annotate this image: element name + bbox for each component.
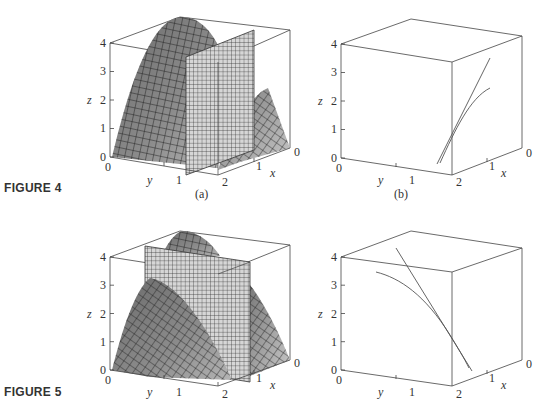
x-tick-1: 1 bbox=[489, 371, 495, 385]
x-axis-label: x bbox=[500, 166, 507, 180]
x-tick-2: 2 bbox=[456, 387, 462, 401]
y-tick-0: 0 bbox=[336, 161, 342, 175]
y-axis-label: y bbox=[146, 173, 153, 187]
figure-5b-plot: 0 1 2 3 4 z 0 y 1 2 1 x 0 bbox=[317, 231, 532, 401]
z-tick-3: 3 bbox=[100, 278, 106, 292]
z-tick-1: 1 bbox=[331, 335, 337, 349]
z-tick-4: 4 bbox=[100, 36, 106, 50]
x-tick-0: 0 bbox=[294, 356, 300, 370]
trace-curve bbox=[440, 88, 490, 163]
x-tick-0: 0 bbox=[526, 146, 532, 160]
z-axis-label: z bbox=[317, 94, 323, 108]
y-tick-1: 1 bbox=[409, 173, 415, 187]
x-tick-1: 1 bbox=[256, 371, 262, 385]
y-axis-label: y bbox=[377, 385, 384, 399]
plots-canvas: 0 1 2 3 4 z 0 y 1 2 1 x 0 0 1 2 3 bbox=[0, 0, 543, 409]
y-tick-1: 1 bbox=[409, 385, 415, 399]
x-tick-2: 2 bbox=[222, 387, 228, 401]
y-axis-label: y bbox=[146, 385, 153, 399]
x-tick-1: 1 bbox=[489, 159, 495, 173]
figure-4b-plot: 0 1 2 3 4 z 0 y 1 2 1 x 0 bbox=[317, 19, 532, 189]
x-axis-label: x bbox=[269, 166, 276, 180]
z-axis-label: z bbox=[86, 93, 92, 107]
z-tick-4: 4 bbox=[331, 37, 337, 51]
z-tick-2: 2 bbox=[331, 94, 337, 108]
tangent-line bbox=[437, 58, 490, 164]
z-axis-label: z bbox=[317, 307, 323, 321]
x-axis-label: x bbox=[269, 378, 276, 392]
x-tick-1: 1 bbox=[256, 159, 262, 173]
z-axis-label: z bbox=[86, 307, 92, 321]
x-tick-2: 2 bbox=[456, 175, 462, 189]
trace-curve bbox=[376, 272, 469, 368]
z-tick-4: 4 bbox=[331, 250, 337, 264]
x-axis-label: x bbox=[500, 378, 507, 392]
figure-4a-plot: 0 1 2 3 4 z 0 y 1 2 1 x 0 bbox=[86, 17, 300, 189]
z-tick-2: 2 bbox=[100, 93, 106, 107]
z-tick-2: 2 bbox=[331, 307, 337, 321]
z-tick-4: 4 bbox=[100, 250, 106, 264]
z-tick-3: 3 bbox=[331, 278, 337, 292]
y-tick-0: 0 bbox=[336, 373, 342, 387]
z-tick-2: 2 bbox=[100, 307, 106, 321]
x-tick-2: 2 bbox=[222, 175, 228, 189]
y-axis-label: y bbox=[377, 173, 384, 187]
z-tick-3: 3 bbox=[100, 64, 106, 78]
y-tick-1: 1 bbox=[176, 385, 182, 399]
z-tick-1: 1 bbox=[100, 335, 106, 349]
x-tick-0: 0 bbox=[294, 145, 300, 159]
z-tick-1: 1 bbox=[100, 121, 106, 135]
figure-5a-plot: 0 1 2 3 4 z 0 y 1 2 1 x 0 bbox=[86, 231, 300, 401]
z-tick-3: 3 bbox=[331, 65, 337, 79]
y-tick-1: 1 bbox=[176, 173, 182, 187]
y-tick-0: 0 bbox=[105, 160, 111, 174]
y-tick-0: 0 bbox=[105, 373, 111, 387]
z-tick-1: 1 bbox=[331, 122, 337, 136]
x-tick-0: 0 bbox=[526, 357, 532, 371]
